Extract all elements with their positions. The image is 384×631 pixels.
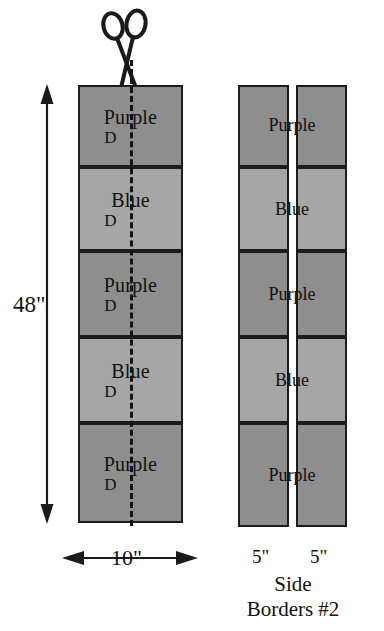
right-left-block-4 <box>238 337 289 423</box>
right-left-block-1 <box>238 85 289 167</box>
right-right-block-1 <box>296 85 347 167</box>
right-left-block-3 <box>238 251 289 337</box>
right-pair-width-right: 5" <box>310 546 327 568</box>
figure-canvas: Purple D Blue D Purple D Blue D Purple D… <box>0 0 384 631</box>
left-block-3-sublabel: D <box>104 297 116 315</box>
scissors-icon <box>101 9 148 92</box>
caption-line-2: Borders #2 <box>223 597 363 622</box>
right-pair-width-left: 5" <box>252 546 269 568</box>
right-right-block-3 <box>296 251 347 337</box>
right-left-block-5 <box>238 423 289 527</box>
right-right-block-4 <box>296 337 347 423</box>
left-block-4-sublabel: D <box>104 383 116 401</box>
caption-line-1: Side <box>233 572 353 597</box>
right-right-block-2 <box>296 167 347 251</box>
left-block-2-sublabel: D <box>104 212 116 230</box>
left-block-5-sublabel: D <box>104 476 116 494</box>
right-right-block-5 <box>296 423 347 527</box>
cut-line <box>130 60 133 526</box>
height-dimension-label: 48" <box>13 292 45 318</box>
right-left-block-2 <box>238 167 289 251</box>
left-block-1-sublabel: D <box>104 129 116 147</box>
width-dimension-label: 10" <box>111 545 142 571</box>
